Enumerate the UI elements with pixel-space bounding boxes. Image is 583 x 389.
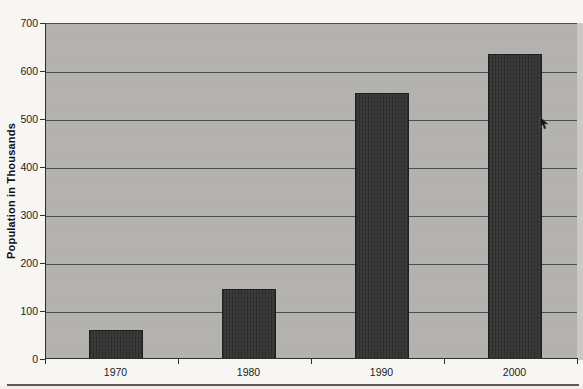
x-tick-mark-0	[45, 359, 46, 364]
y-tick-label-400: 400	[0, 162, 38, 172]
x-tick-mark-4	[577, 359, 578, 364]
y-tick-mark-400	[40, 167, 45, 168]
plot-area	[45, 23, 577, 359]
y-tick-label-300: 300	[0, 210, 38, 220]
y-tick-label-600: 600	[0, 66, 38, 76]
y-tick-mark-600	[40, 71, 45, 72]
y-tick-mark-200	[40, 263, 45, 264]
bar-1970	[89, 330, 143, 359]
x-tick-label-2000: 2000	[448, 366, 581, 378]
y-tick-mark-500	[40, 119, 45, 120]
x-tick-mark-1	[178, 359, 179, 364]
bar-1990	[355, 93, 409, 359]
x-tick-label-1970: 1970	[49, 366, 182, 378]
y-tick-label-700: 700	[0, 18, 38, 28]
y-tick-mark-300	[40, 215, 45, 216]
x-tick-label-1990: 1990	[315, 366, 448, 378]
bar-chart-figure: Population in Thousands 0100200300400500…	[0, 0, 583, 389]
y-tick-label-100: 100	[0, 306, 38, 316]
y-axis-line	[45, 23, 46, 364]
y-tick-mark-700	[40, 23, 45, 24]
plot-right-edge-strip	[577, 23, 583, 360]
x-tick-mark-3	[444, 359, 445, 364]
bar-2000	[488, 54, 542, 359]
y-tick-label-200: 200	[0, 258, 38, 268]
x-tick-label-1980: 1980	[182, 366, 315, 378]
y-tick-label-0: 0	[0, 354, 38, 364]
x-tick-mark-2	[311, 359, 312, 364]
y-tick-label-500: 500	[0, 114, 38, 124]
y-axis-title: Population in Thousands	[5, 111, 17, 271]
y-tick-mark-100	[40, 311, 45, 312]
bar-1980	[222, 289, 276, 359]
